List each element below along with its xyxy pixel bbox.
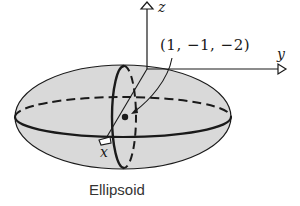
point-marker: [122, 114, 128, 120]
z-axis-arrow-icon: [141, 2, 153, 9]
point-coordinates-label: (1, −1, −2): [160, 38, 250, 53]
ellipsoid-diagram: [0, 0, 300, 206]
z-axis-label: z: [158, 0, 165, 14]
y-axis-label: y: [277, 47, 285, 61]
diagram-caption: Ellipsoid: [89, 182, 145, 197]
y-axis-arrow-icon: [278, 64, 286, 74]
x-axis-label: x: [100, 145, 108, 159]
